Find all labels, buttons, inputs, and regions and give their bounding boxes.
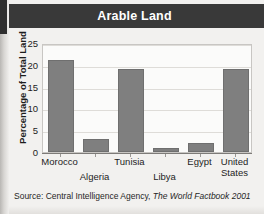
y-axis-tick-label: 25 — [22, 38, 38, 49]
y-axis-tick-label: 15 — [22, 82, 38, 93]
y-axis-tick-label: 10 — [22, 103, 38, 114]
gridline — [43, 132, 251, 133]
x-axis-label-line: Libya — [153, 171, 176, 182]
x-axis-label-line: United — [221, 156, 248, 167]
bar — [83, 139, 109, 152]
source-work-title: The World Factbook 2001 — [153, 191, 251, 201]
chart-canvas: Percentage of Total Land 0510152025 Moro… — [0, 28, 264, 186]
chart-title-band: Arable Land — [5, 4, 264, 28]
page-bottom-shade — [0, 206, 264, 214]
gridline — [43, 67, 251, 68]
gridline — [43, 110, 251, 111]
bar — [153, 148, 179, 152]
source-note: Source: Central Intelligence Agency, The… — [14, 191, 251, 201]
x-axis-label: Tunisia — [90, 156, 170, 167]
bar — [118, 69, 144, 152]
bar — [223, 69, 249, 152]
gridline — [43, 45, 251, 46]
x-axis-label: Morocco — [20, 156, 100, 167]
x-axis-label: Libya — [125, 171, 205, 182]
gridline — [43, 89, 251, 90]
x-axis-label-line: States — [195, 167, 265, 178]
bar — [48, 60, 74, 152]
page-left-dark-edge — [0, 0, 7, 34]
plot-area — [42, 44, 252, 153]
x-axis-label-line: Morocco — [41, 156, 77, 167]
x-axis-label: Algeria — [55, 171, 135, 182]
page-title: Arable Land — [5, 4, 264, 28]
source-prefix: Source: Central Intelligence Agency, — [14, 191, 150, 201]
y-axis-tick-label: 5 — [22, 125, 38, 136]
bar — [188, 143, 214, 152]
x-axis-label: UnitedStates — [195, 156, 265, 178]
x-axis-label-line: Algeria — [80, 171, 110, 182]
x-axis-label-line: Tunisia — [114, 156, 144, 167]
arable-land-figure: Arable Land Percentage of Total Land 051… — [0, 0, 264, 214]
y-axis-tick-label: 20 — [22, 60, 38, 71]
x-axis-line — [42, 153, 252, 154]
